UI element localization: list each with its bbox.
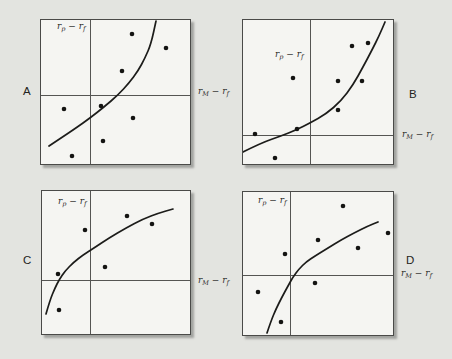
panel-d-scatter-svg — [243, 192, 393, 335]
panel-c-scatter-dot — [103, 265, 108, 270]
panel-b-scatter-dot — [291, 76, 296, 81]
panel-b-letter-label: B — [409, 88, 417, 100]
panel-b-scatter-dot — [350, 44, 355, 49]
panel-c-scatter-dot — [83, 228, 88, 233]
panel-d-scatter-dot — [313, 281, 318, 286]
panel-c-plot-box — [41, 190, 191, 335]
panel-a-scatter-dot — [62, 107, 67, 112]
panel-a-scatter-svg — [41, 20, 190, 164]
panel-d-scatter-dot — [283, 252, 288, 257]
panel-d-letter-label: D — [406, 254, 414, 266]
panel-d-scatter-dot — [356, 246, 361, 251]
panel-a-letter-label: A — [23, 85, 31, 97]
panel-b-characteristic-curve — [243, 22, 385, 152]
panel-a-scatter-dot — [130, 32, 135, 37]
panel-c-scatter-dot — [125, 214, 130, 219]
panel-b-scatter-dot — [336, 79, 341, 84]
panel-a-scatter-dot — [131, 116, 136, 121]
panel-c-scatter-dot — [56, 272, 61, 277]
panel-b-y-axis-label: rp − rf — [275, 48, 304, 61]
panel-a-scatter-dot — [120, 69, 125, 74]
panel-d-characteristic-curve — [267, 222, 378, 333]
panel-d-x-axis-label: rM − rf — [401, 267, 432, 280]
panel-a-scatter-dot — [99, 104, 104, 109]
panel-c-scatter-svg — [42, 191, 190, 334]
panel-c-scatter-dot — [57, 308, 62, 313]
panel-b-scatter-dot — [366, 41, 371, 46]
panel-b-scatter-dot — [253, 132, 258, 137]
panel-a-scatter-dot — [70, 154, 75, 159]
panel-a-scatter-dot — [164, 46, 169, 51]
timing-scatter-figure: rp − rfrM − rfArp − rfrM − rfBrp − rfrM … — [0, 0, 452, 359]
panel-c-y-axis-label: rp − rf — [58, 195, 87, 208]
panel-d-scatter-dot — [386, 231, 391, 236]
panel-c-x-axis-label: rM − rf — [198, 274, 229, 287]
panel-b-scatter-svg — [243, 20, 393, 164]
panel-b-x-axis-label: rM − rf — [402, 128, 433, 141]
panel-d-scatter-dot — [341, 204, 346, 209]
panel-d-y-axis-label: rp − rf — [258, 194, 287, 207]
panel-a-x-axis-label: rM − rf — [198, 85, 229, 98]
panel-b-plot-box — [242, 19, 394, 165]
panel-d-plot-box — [242, 191, 394, 336]
panel-d-scatter-dot — [279, 320, 284, 325]
panel-c-letter-label: C — [23, 254, 31, 266]
panel-b-scatter-dot — [360, 79, 365, 84]
panel-a-y-axis-label: rp − rf — [57, 20, 86, 33]
panel-c-scatter-dot — [150, 222, 155, 227]
panel-a-scatter-dot — [101, 139, 106, 144]
panel-b-scatter-dot — [336, 108, 341, 113]
panel-b-scatter-dot — [295, 127, 300, 132]
panel-d-scatter-dot — [316, 238, 321, 243]
panel-b-scatter-dot — [273, 156, 278, 161]
panel-d-scatter-dot — [256, 290, 261, 295]
panel-a-characteristic-curve — [49, 21, 156, 146]
panel-a-plot-box — [40, 19, 191, 165]
